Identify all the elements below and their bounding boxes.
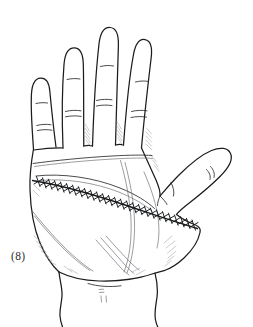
web-shade-1c — [85, 132, 90, 139]
web-shade-2c — [117, 130, 122, 137]
thumb-web-shade-c — [154, 165, 159, 171]
web-shade-2d — [118, 134, 123, 141]
distal-palmar-crease — [33, 155, 152, 163]
web-index-middle — [84, 145, 93, 146]
wrist-right-edge — [155, 273, 158, 327]
wrist-left-edge — [59, 272, 63, 327]
palm-base-shade-a — [64, 266, 72, 272]
middle-finger-outline — [93, 27, 119, 146]
thenar-crease — [121, 161, 132, 273]
midpalm-soft-crease — [96, 240, 129, 275]
web-shade-1d — [86, 136, 91, 143]
web-shade-1b — [85, 128, 90, 135]
distal-palmar-crease-echo — [35, 158, 153, 166]
thumb-web-crease-2 — [158, 196, 161, 206]
web-shade-3e — [146, 144, 152, 150]
thenar-crease-inner — [125, 163, 135, 274]
ring-finger-outline — [124, 39, 152, 148]
wrist-creases-group — [88, 284, 121, 303]
web-shade-2a — [117, 122, 122, 129]
figure-container: Palmar view of right hand with transvers… — [0, 0, 253, 327]
web-shade-1a — [85, 124, 90, 131]
hand-illustration: Palmar view of right hand with transvers… — [0, 0, 253, 327]
index-finger-outline — [62, 48, 83, 148]
thumb-outline — [160, 148, 231, 214]
wrist-crease-tick-3 — [101, 296, 102, 302]
wrist-crease-tick-4 — [106, 296, 107, 302]
thumb-web-shade-b — [153, 160, 159, 167]
web-shade-1e — [86, 140, 91, 146]
little-finger-outline — [31, 78, 56, 149]
wrist-crease-main — [88, 284, 121, 287]
hand-outline-group — [30, 27, 231, 327]
web-shade-2e — [118, 138, 123, 145]
figure-number-label: (8) — [11, 251, 25, 263]
web-shade-2b — [117, 126, 122, 133]
